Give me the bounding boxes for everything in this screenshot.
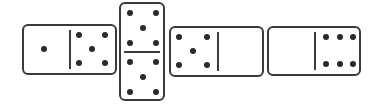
domino-2 [119,2,165,101]
pip [350,34,356,40]
pip [41,46,47,52]
domino-1-divider [69,30,71,69]
pip [337,34,343,40]
pip [76,32,82,38]
pip [153,59,159,65]
pip [176,34,182,40]
pip [204,34,210,40]
pip [190,48,196,54]
pip [337,61,343,67]
pip [176,62,182,68]
pip [323,34,329,40]
domino-4-divider [314,32,316,70]
pip [89,46,95,52]
pip [127,10,133,16]
pip [102,32,108,38]
pip [127,89,133,95]
pip [140,25,146,31]
pip [102,60,108,66]
domino-2-divider [124,51,160,53]
pip [153,89,159,95]
pip [350,61,356,67]
pip [153,10,159,16]
domino-1 [22,24,117,75]
domino-4 [267,26,361,76]
pip [127,59,133,65]
pip [127,40,133,46]
pip [140,74,146,80]
domino-3-divider [217,32,219,71]
pip [204,62,210,68]
pip [153,40,159,46]
pip [323,61,329,67]
pip [76,60,82,66]
domino-3 [169,26,264,77]
